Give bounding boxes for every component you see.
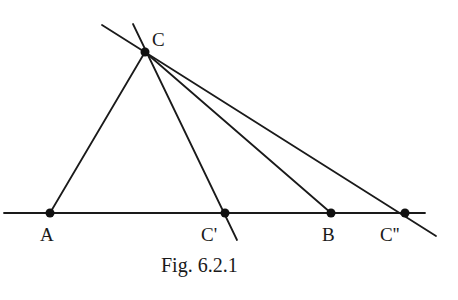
point-c xyxy=(141,48,150,57)
label-c-prime: C' xyxy=(201,224,217,245)
point-a xyxy=(46,209,55,218)
label-b: B xyxy=(322,224,335,245)
line-c-cprime xyxy=(133,24,237,240)
label-c: C xyxy=(152,29,165,50)
point-b xyxy=(327,209,336,218)
geometry-diagram: A C' B C'' C Fig. 6.2.1 xyxy=(0,0,458,300)
point-c-prime xyxy=(221,209,230,218)
point-c-double-prime xyxy=(401,209,410,218)
segment-ca xyxy=(50,52,145,213)
label-c-double-prime: C'' xyxy=(380,224,400,245)
segment-cb xyxy=(145,52,331,213)
figure-caption: Fig. 6.2.1 xyxy=(161,254,238,277)
label-a: A xyxy=(40,224,54,245)
line-c-cdoubleprime xyxy=(102,25,436,236)
